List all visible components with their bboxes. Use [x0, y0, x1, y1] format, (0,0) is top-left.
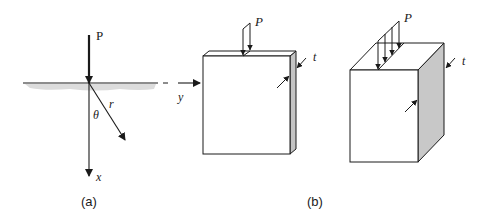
angle-label-theta: θ — [93, 108, 99, 122]
load-connector — [378, 21, 399, 41]
y-axis-label: y — [177, 90, 184, 104]
thin-plate-front-face — [203, 56, 290, 154]
thickness-arrow-outer — [446, 58, 455, 68]
caption-b: (b) — [307, 194, 323, 209]
radius-label: r — [109, 97, 114, 111]
thick-block-thickness-label: t — [462, 54, 466, 68]
thin-plate-thickness-label: t — [313, 50, 317, 64]
x-axis-label: x — [95, 170, 102, 184]
thick-block-load-label: P — [403, 10, 412, 25]
thickness-arrow-outer — [297, 58, 306, 68]
thick-block: P t — [350, 10, 466, 162]
panel-a-half-space: P x r θ y (a) — [23, 28, 200, 209]
thin-plate-load-label: P — [254, 14, 263, 29]
caption-a: (a) — [81, 194, 97, 209]
figure-canvas: P x r θ y (a) P t — [0, 0, 487, 219]
thin-plate: P t — [203, 14, 317, 154]
load-connector — [243, 23, 250, 29]
load-label-p: P — [96, 28, 103, 43]
thin-plate-side-face — [290, 51, 296, 154]
thick-block-front-face — [350, 70, 418, 162]
